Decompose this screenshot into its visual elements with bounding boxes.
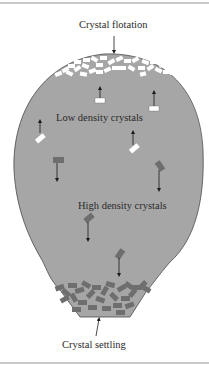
magma-chamber-diagram [0,0,209,366]
magma-chamber [14,54,203,317]
crystal-settling-label: Crystal settling [62,339,126,351]
low-density-crystals-label: Low density crystals [56,112,143,124]
settling-arrow [96,319,99,336]
crystal-flotation-label: Crystal flotation [79,19,148,31]
high-density-crystals-label: High density crystals [78,200,167,212]
